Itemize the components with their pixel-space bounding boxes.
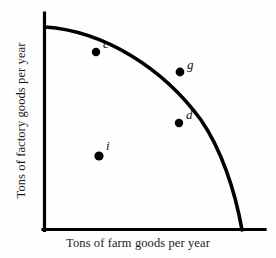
y-axis-title: Tons of factory goods per year [14, 16, 29, 226]
x-axis-title: Tons of farm goods per year [0, 236, 276, 251]
data-point-d[interactable] [175, 119, 183, 127]
data-point-g[interactable] [176, 68, 185, 77]
data-point-label-c: c [103, 37, 109, 50]
data-point-label-g: g [187, 58, 194, 71]
plot-canvas [0, 0, 276, 258]
ppf-curve [45, 27, 242, 230]
data-point-label-d: d [186, 108, 193, 121]
data-point-c[interactable] [92, 48, 100, 56]
ppf-chart-figure: c g d i Tons of farm goods per year Tons… [0, 0, 276, 258]
data-point-i[interactable] [94, 151, 103, 160]
data-point-label-i: i [106, 139, 110, 152]
